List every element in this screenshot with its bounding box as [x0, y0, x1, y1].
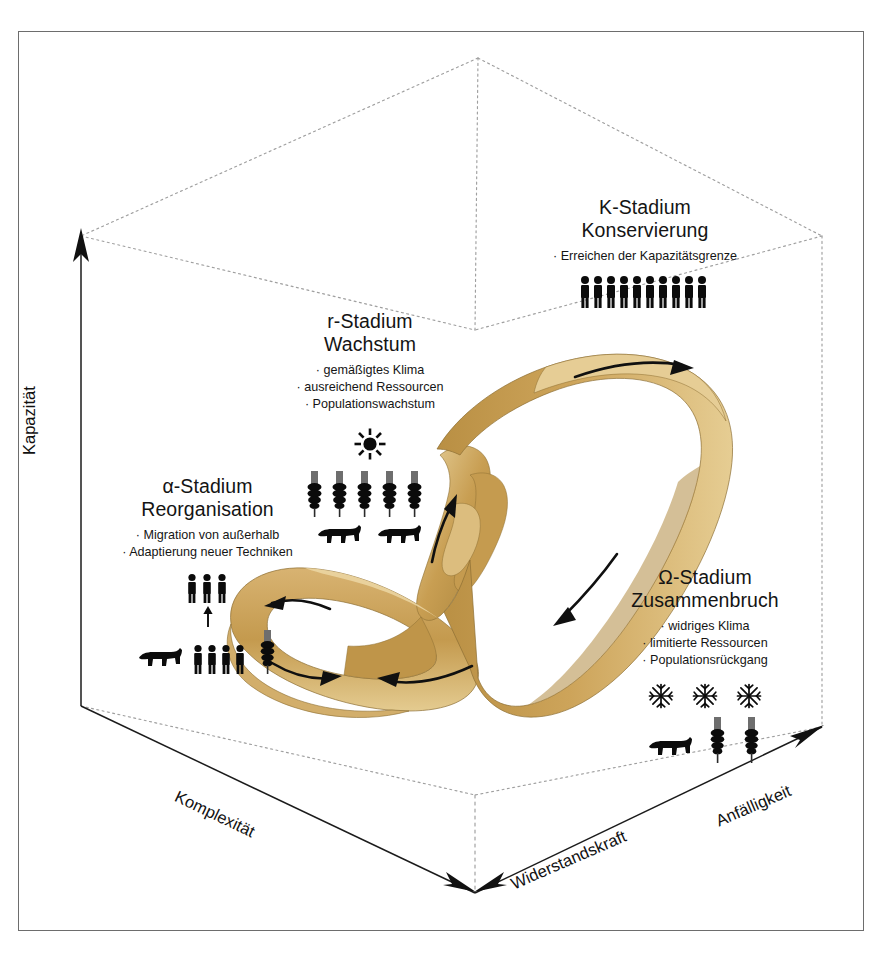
stage-omega-bullet-1: · limitierte Ressourcen	[560, 635, 850, 652]
snowflake-icon	[648, 683, 674, 709]
stage-alpha-bullets: · Migration von außerhalb · Adaptierung …	[75, 527, 340, 561]
stage-r-bullet-1: · ausreichend Ressourcen	[235, 379, 505, 396]
stage-omega-title: Ω-Stadium	[560, 566, 850, 589]
stage-r-bullet-0: · gemäßigtes Klima	[235, 362, 505, 379]
stage-k-bullets: · Erreichen der Kapazitätsgrenze	[500, 248, 790, 265]
stage-r-sun	[235, 427, 505, 461]
wheat-icon	[257, 630, 279, 674]
stage-alpha-bullet-1: · Adaptierung neuer Techniken	[75, 544, 340, 561]
cow-icon	[376, 521, 424, 551]
stage-k-title: K-Stadium	[500, 196, 790, 219]
axis-label-kapazitaet: Kapazität	[20, 386, 39, 455]
stage-alpha-subtitle: Reorganisation	[75, 498, 340, 521]
stage-r-title: r-Stadium	[235, 310, 505, 333]
wheat-icon	[707, 717, 729, 763]
stage-omega-bullet-2: · Populationsrückgang	[560, 652, 850, 669]
stage-omega-subtitle: Zusammenbruch	[560, 589, 850, 612]
up-arrow-icon	[200, 605, 216, 627]
stage-k: K-Stadium Konservierung · Erreichen der …	[500, 196, 790, 309]
stage-k-subtitle: Konservierung	[500, 219, 790, 242]
stage-r-bullets: · gemäßigtes Klima · ausreichend Ressour…	[235, 362, 505, 413]
stage-alpha-top-people	[75, 573, 340, 603]
cow-icon	[647, 733, 695, 763]
stage-r-bullet-2: · Populationswachstum	[235, 396, 505, 413]
person-icon-group	[580, 275, 710, 309]
stage-alpha-bottom-row	[75, 630, 340, 674]
stage-k-bullet-0: · Erreichen der Kapazitätsgrenze	[500, 248, 790, 265]
snowflake-icon	[736, 683, 762, 709]
stage-alpha-bullet-0: · Migration von außerhalb	[75, 527, 340, 544]
stage-omega-bullets: · widriges Klima · limitierte Ressourcen…	[560, 618, 850, 669]
wheat-icon	[741, 717, 763, 763]
stage-omega-bullet-0: · widriges Klima	[560, 618, 850, 635]
stage-alpha-title: α-Stadium	[75, 475, 340, 498]
stage-omega-animals-row	[560, 717, 850, 763]
person-icon-group	[186, 573, 230, 603]
stage-omega-snow-row	[560, 683, 850, 709]
stage-omega: Ω-Stadium Zusammenbruch · widriges Klima…	[560, 566, 850, 763]
figure-canvas: K-Stadium Konservierung · Erreichen der …	[0, 0, 886, 964]
sun-icon	[353, 427, 387, 461]
stage-alpha: α-Stadium Reorganisation · Migration von…	[75, 475, 340, 674]
stage-alpha-migration-arrow	[75, 605, 340, 627]
stage-k-icons	[500, 275, 790, 309]
stage-r-subtitle: Wachstum	[235, 333, 505, 356]
cow-icon	[137, 644, 185, 674]
snowflake-icon	[692, 683, 718, 709]
person-icon-group	[192, 644, 250, 674]
